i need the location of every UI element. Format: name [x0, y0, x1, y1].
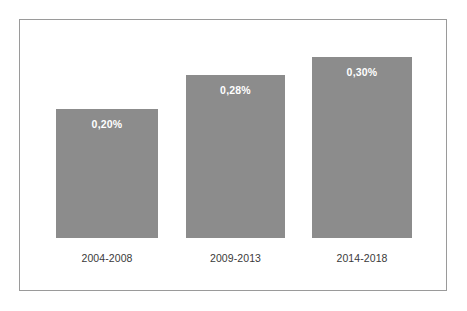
- bar-group-1: 0,28% 2009-2013: [186, 75, 285, 238]
- bar-value-label: 0,28%: [186, 84, 285, 96]
- category-label-2004-2008: 2004-2008: [34, 238, 180, 264]
- category-label-2014-2018: 2014-2018: [290, 238, 434, 264]
- chart-frame: 0,20% 2004-2008 0,28% 2009-2013 0,30% 20…: [19, 19, 447, 291]
- bar-2014-2018[interactable]: 0,30%: [312, 57, 412, 238]
- bar-value-label: 0,30%: [312, 66, 412, 78]
- bar-2009-2013[interactable]: 0,28%: [186, 75, 285, 238]
- bar-group-2: 0,30% 2014-2018: [312, 57, 412, 238]
- bar-group-0: 0,20% 2004-2008: [56, 109, 158, 238]
- bar-value-label: 0,20%: [56, 118, 158, 130]
- category-label-2009-2013: 2009-2013: [164, 238, 307, 264]
- bar-2004-2008[interactable]: 0,20%: [56, 109, 158, 238]
- plot-area: 0,20% 2004-2008 0,28% 2009-2013 0,30% 20…: [20, 20, 446, 290]
